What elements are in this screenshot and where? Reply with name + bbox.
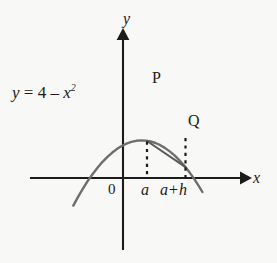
- y-axis-label: y: [123, 11, 130, 27]
- figure-canvas: [0, 0, 277, 263]
- point-label-p: P: [152, 70, 161, 86]
- origin-label: 0: [108, 182, 116, 197]
- equation-variable: x: [63, 83, 71, 102]
- tick-label-a-plus-h: a+h: [160, 182, 187, 198]
- point-label-q: Q: [188, 113, 200, 129]
- equation-equals: =: [20, 83, 38, 102]
- y-axis-arrowhead: [117, 28, 130, 40]
- parabola-secant-figure: y = 4 – x2 y x 0 a a+h P Q: [0, 0, 277, 263]
- tick-label-a: a: [141, 182, 149, 198]
- x-axis-label: x: [253, 170, 260, 186]
- secant-line-pq: [147, 141, 186, 167]
- equation-constant: 4: [38, 83, 51, 102]
- equation-minus-sign: –: [50, 83, 63, 102]
- tick-a-plus-h-second-term: h: [179, 181, 187, 198]
- equation-lhs: y: [12, 83, 20, 102]
- tick-a-plus-h-first-term: a: [160, 181, 168, 198]
- equation-exponent: 2: [71, 82, 76, 93]
- curve-equation-label: y = 4 – x2: [12, 84, 76, 101]
- x-axis-arrowhead: [240, 172, 252, 185]
- tick-a-plus-h-operator: +: [168, 181, 179, 198]
- y-axis: [117, 28, 130, 250]
